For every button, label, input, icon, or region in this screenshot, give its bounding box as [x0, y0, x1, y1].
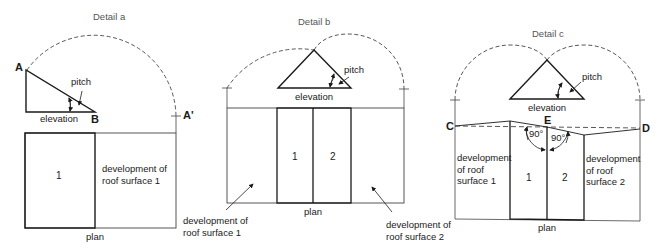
detail-b-development-1-label: development of roof surface 1 [183, 215, 248, 238]
detail-b-development-2-label: development of roof surface 2 [386, 219, 451, 242]
detail-c-left-arc [455, 45, 547, 100]
detail-c-development-2-label: development of roof surface 2 [586, 153, 640, 188]
detail-c-plan-label: plan [538, 222, 556, 234]
detail-c [450, 45, 645, 221]
detail-c-elevation-label: elevation [528, 102, 566, 114]
detail-c-title: Detail c [532, 28, 564, 40]
point-c-label: C [446, 121, 454, 133]
detail-b-leader-1 [226, 184, 253, 210]
detail-b-plan-label: plan [304, 206, 322, 218]
detail-b-plan-outer [227, 108, 404, 203]
detail-b-plan-inner [277, 108, 351, 203]
detail-c-angle-left: 90° [529, 128, 543, 140]
detail-b-left-arc [227, 49, 314, 88]
detail-b-elevation-triangle [278, 50, 351, 88]
detail-b-pitch-label: pitch [344, 64, 364, 76]
point-a-prime-label: A' [183, 110, 194, 122]
detail-b-right-arc [314, 34, 404, 89]
detail-a-title: Detail a [93, 11, 125, 23]
detail-b-surface-2: 2 [330, 151, 336, 163]
detail-a-surface-1: 1 [56, 170, 62, 182]
point-e-label: E [544, 115, 551, 127]
detail-c-elevation-triangle [510, 60, 584, 99]
detail-c-pitch-label: pitch [582, 71, 602, 83]
detail-c-development-1-label: development of roof surface 1 [457, 152, 511, 187]
point-b-label: B [91, 114, 99, 126]
detail-c-surface-1: 1 [526, 172, 532, 184]
detail-a-pitch-label: pitch [71, 76, 91, 88]
detail-b-leader-2 [372, 187, 392, 212]
detail-b-surface-1: 1 [292, 151, 298, 163]
detail-a-development-label: development of roof surface 1 [102, 163, 167, 186]
detail-b [222, 34, 409, 212]
point-a-label: A [15, 62, 23, 74]
detail-b-title: Detail b [298, 16, 330, 28]
detail-c-angle-right: 90° [551, 132, 565, 144]
point-d-label: D [642, 123, 650, 135]
detail-a-elevation-label: elevation [40, 113, 78, 125]
detail-a [25, 35, 181, 228]
detail-a-plan-label: plan [86, 231, 104, 243]
detail-a-swing-arc [27, 35, 176, 116]
detail-c-surface-2: 2 [562, 172, 568, 184]
detail-b-elevation-label: elevation [295, 91, 333, 103]
